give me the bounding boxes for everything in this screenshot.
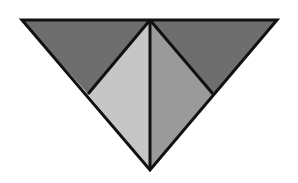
triangle-dissection-figure — [0, 0, 298, 183]
diagram-canvas — [0, 0, 298, 183]
